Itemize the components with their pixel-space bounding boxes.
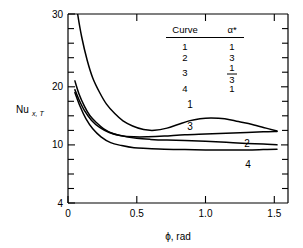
chart-canvas: 30 20 10 4 0 0.5 1.0 1.5 Nu x, T ϕ, rad …	[0, 0, 303, 248]
legend-row-alpha: 1	[229, 41, 234, 52]
y-ticks-right	[281, 29, 288, 189]
legend-header-curve: Curve	[172, 24, 197, 35]
curve-1	[74, 0, 278, 131]
legend-row-curve: 2	[182, 52, 187, 63]
legend-row-curve: 4	[182, 83, 187, 94]
legend-row-curve: 3	[182, 67, 187, 78]
legend-row-alpha: 1	[229, 83, 234, 94]
figure: 30 20 10 4 0 0.5 1.0 1.5 Nu x, T ϕ, rad …	[0, 0, 303, 248]
x-tick-label: 1.0	[199, 208, 213, 219]
curve-3	[75, 90, 277, 137]
x-tick-label: 0.5	[130, 208, 144, 219]
curve-label-3: 3	[187, 121, 193, 132]
legend: Curve α* 1 1 2 3 3 1 3 4 1	[166, 24, 244, 94]
y-tick-label: 20	[52, 81, 64, 92]
legend-row-alpha-numerator: 1	[229, 62, 234, 73]
legend-header-alpha: α*	[227, 24, 236, 35]
plot-axes	[68, 14, 288, 203]
y-axis-title: Nu	[16, 104, 29, 115]
y-ticks	[68, 14, 75, 203]
y-tick-label: 4	[57, 198, 63, 209]
x-axis-title: ϕ, rad	[165, 231, 191, 242]
legend-row-curve: 1	[182, 41, 187, 52]
y-tick-labels: 30 20 10 4	[52, 9, 64, 209]
y-tick-label: 30	[52, 9, 64, 20]
y-tick-label: 10	[52, 139, 64, 150]
y-axis-title-subscript: x, T	[31, 110, 44, 117]
axis-titles: Nu x, T ϕ, rad	[16, 104, 191, 242]
x-tick-label: 1.5	[267, 208, 281, 219]
x-tick-labels: 0 0.5 1.0 1.5	[65, 208, 281, 219]
data-curves	[74, 0, 278, 150]
curve-label-4: 4	[245, 159, 251, 170]
curve-label-2: 2	[244, 138, 250, 149]
x-tick-label: 0	[65, 208, 71, 219]
x-ticks	[68, 14, 274, 203]
curve-label-1: 1	[187, 99, 193, 110]
